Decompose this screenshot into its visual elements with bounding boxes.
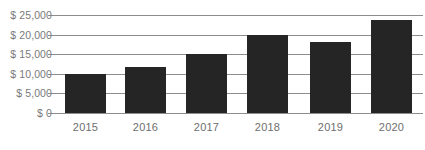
y-axis-label-10000: $ 10,000 [0,69,52,80]
x-axis-label-2020: 2020 [371,122,412,133]
gridline-15000 [57,54,423,55]
bar-2018 [247,35,288,113]
bar-2016 [125,67,166,113]
y-axis-label-20000: $ 20,000 [0,29,52,40]
gridline-10000 [57,74,423,75]
bar-chart: $ 25,000 $ 20,000 $ 15,000 $ 10,000 $ 5,… [0,0,425,150]
x-axis-label-2015: 2015 [65,122,106,133]
axis-baseline [57,113,423,114]
x-axis-label-2016: 2016 [125,122,166,133]
gridline-25000 [57,15,423,16]
bar-2017 [186,54,227,113]
x-axis-label-2017: 2017 [186,122,227,133]
bar-2015 [65,74,106,113]
x-axis-label-2018: 2018 [247,122,288,133]
x-axis-label-2019: 2019 [310,122,351,133]
y-axis-label-25000: $ 25,000 [0,10,52,21]
y-axis-label-0: $ 0 [0,108,52,119]
y-axis-label-15000: $ 15,000 [0,49,52,60]
y-axis-label-5000: $ 5,000 [0,88,52,99]
bar-2020 [371,20,412,113]
gridline-5000 [57,93,423,94]
gridline-20000 [57,35,423,36]
bar-2019 [310,42,351,113]
